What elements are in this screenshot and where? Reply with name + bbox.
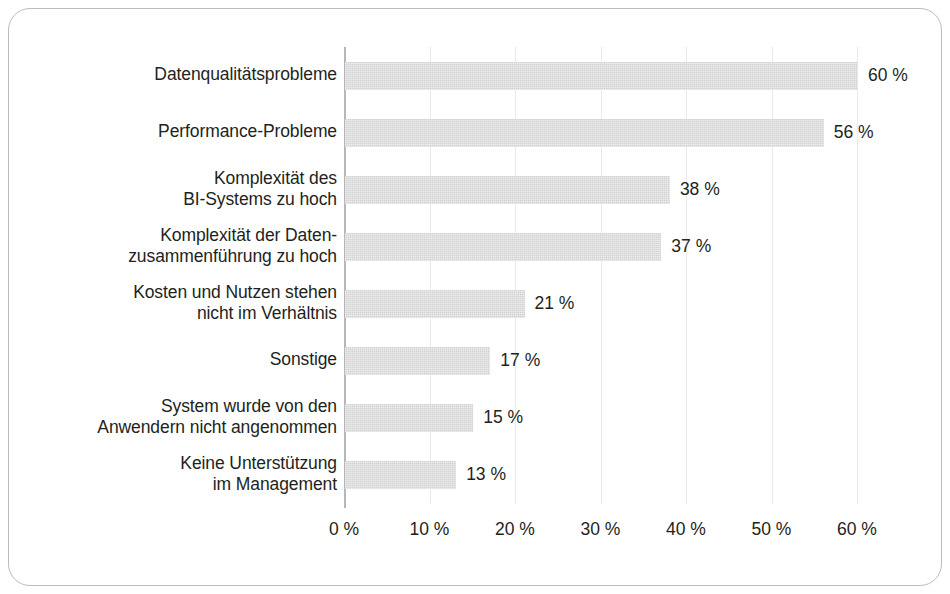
- x-axis-tick-label: 50 %: [727, 519, 817, 540]
- gridline-20: [515, 47, 516, 504]
- category-label: Komplexität der Daten- zusammenführung z…: [7, 225, 337, 267]
- category-label: Datenqualitätsprobleme: [7, 64, 337, 85]
- bar: [345, 233, 661, 261]
- category-label: Sonstige: [7, 349, 337, 370]
- bar: [345, 119, 824, 147]
- chart-figure: Datenqualitätsprobleme60 %Performance-Pr…: [0, 0, 950, 594]
- bar-row: Performance-Probleme56 %: [0, 119, 950, 147]
- bar-value-label: 38 %: [680, 179, 720, 200]
- gridline-50: [772, 47, 773, 504]
- x-axis-tick-label: 30 %: [556, 519, 646, 540]
- category-label: System wurde von den Anwendern nicht ang…: [7, 396, 337, 438]
- bar: [345, 461, 456, 489]
- bar-chart-plot-area: Datenqualitätsprobleme60 %Performance-Pr…: [0, 0, 950, 594]
- x-axis-tick-label: 0 %: [299, 519, 389, 540]
- category-label: Keine Unterstützung im Management: [7, 453, 337, 495]
- category-label: Komplexität des BI-Systems zu hoch: [7, 168, 337, 210]
- x-axis-tick-label: 10 %: [385, 519, 475, 540]
- x-axis-tick-label: 40 %: [641, 519, 731, 540]
- bar: [345, 404, 473, 432]
- bar-value-label: 37 %: [671, 236, 711, 257]
- category-label: Kosten und Nutzen stehen nicht im Verhäl…: [7, 282, 337, 324]
- bar: [345, 290, 525, 318]
- x-axis-tick-label: 60 %: [812, 519, 902, 540]
- bar-row: System wurde von den Anwendern nicht ang…: [0, 404, 950, 432]
- bar-value-label: 60 %: [868, 65, 908, 86]
- gridline-60: [857, 47, 858, 504]
- bar-row: Sonstige17 %: [0, 347, 950, 375]
- y-axis-line: [344, 47, 346, 508]
- bar: [345, 176, 670, 204]
- bar-row: Komplexität des BI-Systems zu hoch38 %: [0, 176, 950, 204]
- bar-row: Kosten und Nutzen stehen nicht im Verhäl…: [0, 290, 950, 318]
- bar-row: Komplexität der Daten- zusammenführung z…: [0, 233, 950, 261]
- gridline-10: [430, 47, 431, 504]
- bar-value-label: 21 %: [535, 293, 575, 314]
- bar: [345, 347, 490, 375]
- category-label: Performance-Probleme: [7, 121, 337, 142]
- bar-value-label: 15 %: [483, 407, 523, 428]
- x-axis-tick-label: 20 %: [470, 519, 560, 540]
- bar-row: Datenqualitätsprobleme60 %: [0, 62, 950, 90]
- gridline-30: [601, 47, 602, 504]
- gridline-40: [686, 47, 687, 504]
- bar-row: Keine Unterstützung im Management13 %: [0, 461, 950, 489]
- bar-value-label: 56 %: [834, 122, 874, 143]
- bar-value-label: 13 %: [466, 464, 506, 485]
- bar-value-label: 17 %: [500, 350, 540, 371]
- bar: [345, 62, 858, 90]
